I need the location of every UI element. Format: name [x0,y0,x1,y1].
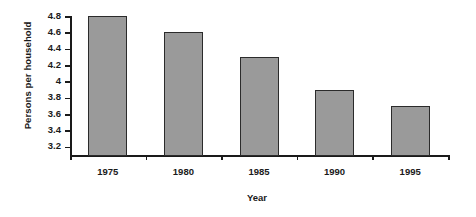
x-tick-label-1980: 1980 [145,166,221,177]
x-tick [372,155,374,160]
bar-1980 [164,32,203,156]
y-axis-title: Persons per household [22,1,33,151]
y-tick-label: 4 [56,75,61,87]
y-tick-4: 4 [65,81,70,83]
y-tick-3.4: 3.4 [65,130,70,132]
x-tick [448,155,450,160]
y-tick-label: 4.4 [48,42,61,54]
bar-chart: Persons per household 4.84.64.44.243.83.… [0,0,476,217]
y-tick-label: 4.8 [48,10,61,22]
y-axis-line [70,16,72,155]
plot-area: 4.84.64.44.243.83.63.43.2 19751980198519… [70,16,448,155]
y-tick-label: 3.4 [48,124,61,136]
x-tick-label-1995: 1995 [372,166,448,177]
bar-1995 [391,106,430,156]
y-tick-4.8: 4.8 [65,16,70,18]
bar-1985 [240,57,279,156]
y-tick-label: 4.6 [48,26,61,38]
y-tick-4.6: 4.6 [65,32,70,34]
bar-1975 [88,16,127,156]
x-tick-label-1990: 1990 [297,166,373,177]
x-tick [146,155,148,160]
x-tick [297,155,299,160]
y-tick-3.6: 3.6 [65,114,70,116]
y-tick-label: 3.6 [48,108,61,120]
y-tick-label: 4.2 [48,59,61,71]
x-tick [221,155,223,160]
x-tick-label-1985: 1985 [221,166,297,177]
y-tick-3.8: 3.8 [65,98,70,100]
y-tick-4.4: 4.4 [65,49,70,51]
x-tick [70,155,72,160]
y-tick-label: 3.2 [48,140,61,152]
bar-1990 [315,90,354,156]
y-tick-4.2: 4.2 [65,65,70,67]
y-tick-3.2: 3.2 [65,147,70,149]
x-axis-title: Year [0,192,476,203]
y-tick-label: 3.8 [48,91,61,103]
x-tick-label-1975: 1975 [70,166,146,177]
